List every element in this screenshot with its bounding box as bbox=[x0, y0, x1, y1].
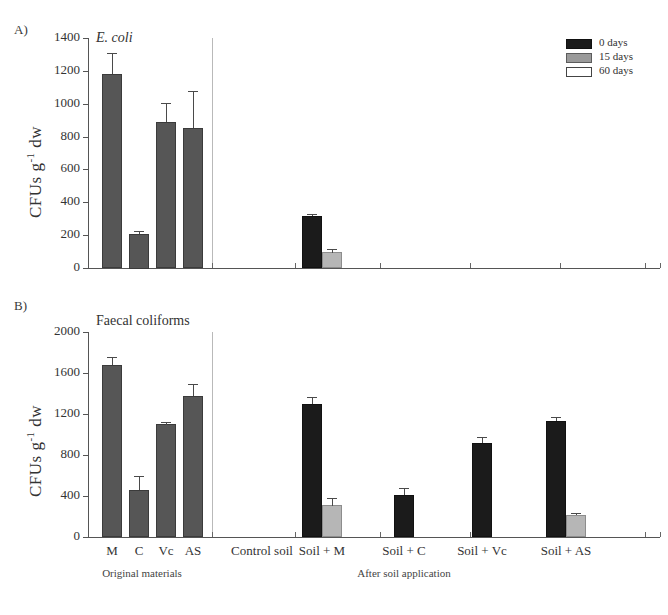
figure-root: A) CFUs g-1 dw E. coli 02004006008001000… bbox=[0, 0, 668, 615]
panel-b: B) CFUs g-1 dw Faecal coliforms 04008001… bbox=[0, 297, 668, 615]
y-axis-tick bbox=[83, 104, 88, 105]
legend-item: 0 days bbox=[566, 38, 646, 50]
x-axis-end-tick bbox=[660, 263, 661, 268]
error-bar bbox=[161, 103, 171, 122]
x-axis-category-label: Soil + AS bbox=[521, 543, 611, 559]
y-axis-tick-label: 800 bbox=[26, 446, 80, 462]
bar-0-days bbox=[394, 495, 414, 537]
legend-label: 0 days bbox=[599, 36, 627, 48]
error-bar bbox=[134, 476, 144, 490]
y-axis-tick bbox=[83, 373, 88, 374]
y-axis-tick bbox=[83, 71, 88, 72]
y-axis-tick bbox=[83, 202, 88, 203]
y-axis-tick bbox=[83, 235, 88, 236]
y-axis-tick bbox=[83, 332, 88, 333]
x-axis-tick bbox=[645, 532, 646, 537]
y-axis-tick-label: 2000 bbox=[26, 323, 80, 339]
panel-a: A) CFUs g-1 dw E. coli 02004006008001000… bbox=[0, 0, 668, 300]
group-divider bbox=[212, 332, 213, 537]
x-axis-tick bbox=[295, 532, 296, 537]
legend-item: 60 days bbox=[566, 66, 646, 78]
error-bar bbox=[399, 488, 409, 495]
y-axis-tick-label: 200 bbox=[26, 226, 80, 242]
y-axis-line bbox=[88, 332, 89, 538]
y-axis-tick bbox=[83, 414, 88, 415]
bar-15-days bbox=[322, 505, 342, 537]
y-axis-tick bbox=[83, 137, 88, 138]
error-bar bbox=[107, 357, 117, 365]
x-axis-category-label: Soil + M bbox=[277, 543, 367, 559]
y-axis-tick-label: 400 bbox=[26, 193, 80, 209]
bar-0-days bbox=[183, 128, 203, 268]
bar-0-days bbox=[129, 490, 149, 537]
bar-0-days bbox=[102, 365, 122, 537]
legend-label: 15 days bbox=[599, 50, 633, 62]
bar-0-days bbox=[302, 404, 322, 537]
bar-0-days bbox=[546, 421, 566, 537]
y-axis-tick bbox=[83, 455, 88, 456]
x-axis-tick bbox=[212, 532, 213, 537]
error-bar bbox=[107, 53, 117, 74]
y-axis-tick bbox=[83, 169, 88, 170]
error-bar bbox=[307, 214, 317, 216]
error-bar bbox=[307, 397, 317, 404]
x-axis-tick bbox=[560, 263, 561, 268]
y-axis-line bbox=[88, 38, 89, 269]
error-bar bbox=[188, 91, 198, 128]
error-bar bbox=[571, 513, 581, 515]
x-axis-tick bbox=[645, 263, 646, 268]
error-bar bbox=[327, 498, 337, 506]
group-divider bbox=[212, 38, 213, 268]
legend-swatch-gray bbox=[566, 53, 592, 63]
x-axis-tick bbox=[380, 532, 381, 537]
error-bar bbox=[327, 249, 337, 253]
legend-swatch-white bbox=[566, 67, 592, 77]
legend-swatch-dark bbox=[566, 39, 592, 49]
x-axis-category-label: Soil + Vc bbox=[437, 543, 527, 559]
x-axis-group-label-left: Original materials bbox=[42, 567, 242, 579]
bar-15-days bbox=[322, 252, 342, 268]
x-axis-category-label: Soil + C bbox=[359, 543, 449, 559]
x-axis-tick bbox=[212, 263, 213, 268]
y-axis-tick bbox=[83, 38, 88, 39]
y-axis-tick-label: 1600 bbox=[26, 364, 80, 380]
y-axis-tick-label: 800 bbox=[26, 128, 80, 144]
y-axis-tick-label: 0 bbox=[26, 528, 80, 544]
error-bar bbox=[477, 437, 487, 443]
x-axis-tick bbox=[295, 263, 296, 268]
x-axis-end-tick bbox=[660, 532, 661, 537]
error-bar bbox=[161, 422, 171, 425]
y-axis-tick-label: 1200 bbox=[26, 62, 80, 78]
y-axis-tick-label: 0 bbox=[26, 259, 80, 275]
legend-label: 60 days bbox=[599, 64, 633, 76]
bar-0-days bbox=[102, 74, 122, 268]
legend-item: 15 days bbox=[566, 52, 646, 64]
y-axis-tick-label: 600 bbox=[26, 160, 80, 176]
error-bar bbox=[134, 231, 144, 234]
x-axis-tick bbox=[380, 263, 381, 268]
bar-0-days bbox=[129, 234, 149, 269]
bar-15-days bbox=[566, 515, 586, 537]
x-axis-group-label-right: After soil application bbox=[304, 567, 504, 579]
bar-0-days bbox=[302, 216, 322, 268]
y-axis-tick-label: 1000 bbox=[26, 95, 80, 111]
bar-0-days bbox=[156, 122, 176, 268]
error-bar bbox=[551, 417, 561, 421]
bar-0-days bbox=[183, 396, 203, 537]
x-axis-line bbox=[88, 537, 660, 538]
y-axis-tick bbox=[83, 496, 88, 497]
x-axis-tick bbox=[470, 532, 471, 537]
y-axis-tick-label: 400 bbox=[26, 487, 80, 503]
x-axis-tick bbox=[470, 263, 471, 268]
bar-0-days bbox=[156, 424, 176, 537]
error-bar bbox=[188, 384, 198, 396]
x-axis-line bbox=[88, 268, 660, 269]
y-axis-tick bbox=[83, 537, 88, 538]
y-axis-tick bbox=[83, 268, 88, 269]
y-axis-tick-label: 1200 bbox=[26, 405, 80, 421]
bar-0-days bbox=[472, 443, 492, 537]
y-axis-tick-label: 1400 bbox=[26, 29, 80, 45]
